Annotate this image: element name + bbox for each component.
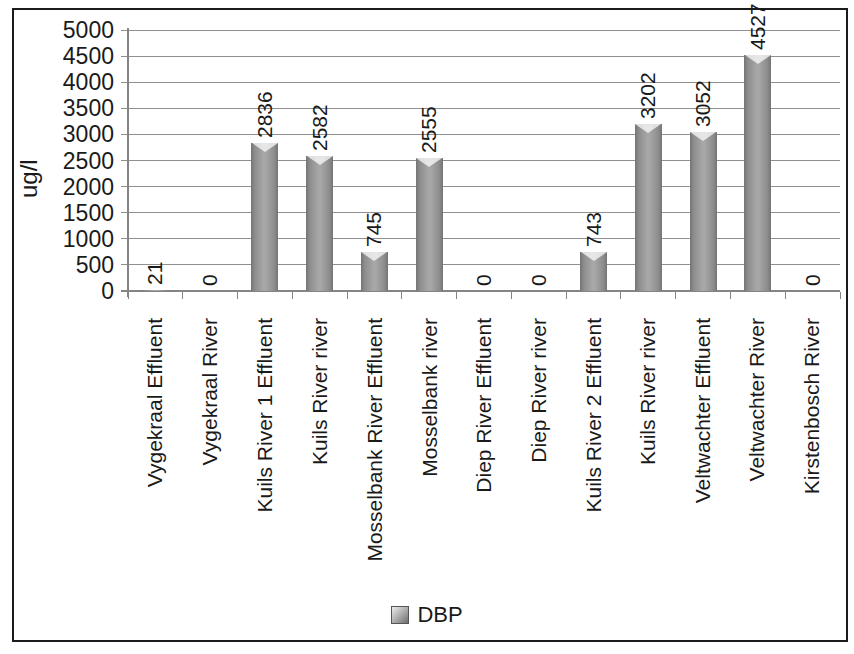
bar-top-highlight bbox=[307, 156, 333, 165]
bar bbox=[744, 55, 771, 291]
bar-value-label: 0 bbox=[473, 274, 495, 286]
legend: DBP bbox=[0, 602, 854, 628]
bar-top-highlight bbox=[745, 55, 771, 64]
y-tick-label: 2000 bbox=[0, 174, 114, 200]
bar-top-highlight bbox=[416, 158, 442, 167]
legend-label: DBP bbox=[417, 602, 462, 628]
y-tick-label: 4000 bbox=[0, 69, 114, 95]
bar-value-label: 3052 bbox=[692, 80, 714, 127]
y-tick-label: 2500 bbox=[0, 148, 114, 174]
gridline bbox=[121, 82, 840, 83]
x-axis-label: Kuils River 2 Effluent bbox=[583, 318, 605, 513]
x-axis-tick bbox=[566, 292, 567, 299]
x-axis-tick bbox=[675, 292, 676, 299]
bar bbox=[635, 124, 662, 291]
x-axis-tick bbox=[347, 292, 348, 299]
y-tick-label: 500 bbox=[0, 252, 114, 278]
bar-value-label: 2836 bbox=[254, 91, 276, 138]
x-axis-tick bbox=[456, 292, 457, 299]
bar-value-label: 4527 bbox=[747, 3, 769, 50]
gridline bbox=[121, 56, 840, 57]
bar bbox=[361, 252, 388, 291]
y-tick-label: 5000 bbox=[0, 17, 114, 43]
y-tick-label: 1000 bbox=[0, 226, 114, 252]
bar-top-highlight bbox=[581, 252, 607, 261]
bar-value-label: 2555 bbox=[418, 106, 440, 153]
bar-value-label: 0 bbox=[528, 274, 550, 286]
x-axis-tick bbox=[237, 292, 238, 299]
chart-figure: ug/l 05001000150020002500300035004000450… bbox=[0, 0, 854, 654]
bar-value-label: 2582 bbox=[309, 105, 331, 152]
y-tick-label: 4500 bbox=[0, 43, 114, 69]
x-axis-label: Diep River Effluent bbox=[473, 318, 495, 493]
x-axis-tick bbox=[840, 292, 841, 299]
x-axis-tick bbox=[182, 292, 183, 299]
y-tick-label: 0 bbox=[0, 278, 114, 304]
y-axis-line bbox=[127, 28, 129, 297]
x-axis-label: Kirstenbosch River bbox=[802, 318, 824, 494]
gridline bbox=[121, 264, 840, 265]
bar-value-label: 0 bbox=[802, 274, 824, 286]
x-axis-label: Veltwachter Effluent bbox=[692, 318, 714, 503]
gridline bbox=[121, 212, 840, 213]
bar-value-label: 21 bbox=[144, 262, 166, 285]
bar-value-label: 743 bbox=[583, 212, 605, 247]
gridline bbox=[121, 108, 840, 109]
x-axis-label: Vygekraal River bbox=[199, 318, 221, 465]
bar bbox=[580, 252, 607, 291]
x-axis-label: Veltwachter River bbox=[747, 318, 769, 481]
x-axis-tick bbox=[292, 292, 293, 299]
x-axis-label: Diep River river bbox=[528, 318, 550, 463]
y-tick-label: 3500 bbox=[0, 95, 114, 121]
x-axis-label: Mosselbank River Effluent bbox=[363, 318, 385, 562]
x-axis-line bbox=[121, 290, 840, 292]
x-axis-tick bbox=[401, 292, 402, 299]
bar-top-highlight bbox=[690, 132, 716, 141]
x-axis-tick bbox=[620, 292, 621, 299]
x-axis-tick bbox=[785, 292, 786, 299]
x-axis-label: Kuils River river bbox=[309, 318, 331, 465]
gridline bbox=[121, 238, 840, 239]
bar-value-label: 0 bbox=[199, 274, 221, 286]
x-axis-tick bbox=[511, 292, 512, 299]
x-axis-tick bbox=[128, 292, 129, 299]
gridline bbox=[121, 160, 840, 161]
bar bbox=[251, 143, 278, 291]
x-axis-label: Kuils River river bbox=[637, 318, 659, 465]
bar bbox=[306, 156, 333, 291]
x-axis-tick bbox=[730, 292, 731, 299]
bar bbox=[690, 132, 717, 291]
bar-top-highlight bbox=[252, 143, 278, 152]
bar bbox=[416, 158, 443, 291]
y-tick-label: 3000 bbox=[0, 121, 114, 147]
bar-value-label: 745 bbox=[363, 212, 385, 247]
legend-swatch-dbp bbox=[391, 606, 409, 624]
bar-top-highlight bbox=[635, 124, 661, 133]
gridline bbox=[121, 30, 840, 31]
gridline bbox=[121, 134, 840, 135]
x-axis-label: Kuils River 1 Effluent bbox=[254, 318, 276, 513]
y-tick-label: 1500 bbox=[0, 200, 114, 226]
x-axis-label: Mosselbank river bbox=[418, 318, 440, 477]
bar-value-label: 3202 bbox=[637, 72, 659, 119]
gridline bbox=[121, 186, 840, 187]
x-axis-label: Vygekraal Effluent bbox=[144, 318, 166, 487]
bar-top-highlight bbox=[361, 252, 387, 261]
bar bbox=[142, 290, 169, 291]
